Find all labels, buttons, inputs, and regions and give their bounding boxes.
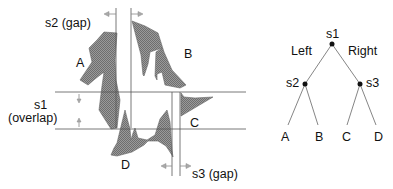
tree-label-s1: s1 [326, 27, 339, 41]
arrowhead-s2-right [138, 12, 143, 17]
label-s2-gap: s2 (gap) [45, 16, 91, 30]
shapes [80, 21, 213, 157]
tree-label-right: Right [348, 44, 378, 58]
region-label-c: C [190, 116, 199, 130]
node-s2 [303, 82, 308, 87]
arrowhead-s1-down [77, 99, 81, 103]
node-s3 [358, 82, 363, 87]
tree-leaf-d: D [374, 130, 383, 144]
tree-label-s3: s3 [366, 76, 379, 90]
label-s1-overlap: (overlap) [8, 111, 57, 125]
shape-a [80, 32, 120, 129]
arrowhead-s1-up [77, 118, 81, 122]
region-label-a: A [76, 56, 85, 70]
edge-s2-b [305, 84, 318, 125]
arrowhead-s3-right [186, 164, 191, 169]
label-s1: s1 [34, 98, 47, 112]
tree-label-s2: s2 [286, 76, 299, 90]
shape-c [181, 93, 213, 116]
shape-b [132, 21, 186, 88]
edge-s2-a [288, 84, 305, 125]
region-label-b: B [184, 47, 192, 61]
label-s3-gap: s3 (gap) [192, 167, 238, 181]
tree-label-left: Left [291, 44, 312, 58]
split-diagram: s2 (gap) s1 (overlap) s3 (gap) A B C D s… [0, 0, 393, 189]
arrowhead-s3-left [161, 164, 166, 169]
shape-d [111, 110, 173, 157]
edge-s3-d [360, 84, 376, 125]
kd-tree: s1 Left Right s2 s3 A B C D [281, 27, 383, 144]
edge-s3-c [347, 84, 360, 125]
tree-leaf-b: B [315, 130, 323, 144]
tree-leaf-a: A [281, 130, 290, 144]
node-s1 [330, 42, 335, 47]
region-label-d: D [121, 158, 130, 172]
tree-leaf-c: C [342, 130, 351, 144]
arrowhead-s2-left [104, 12, 109, 17]
